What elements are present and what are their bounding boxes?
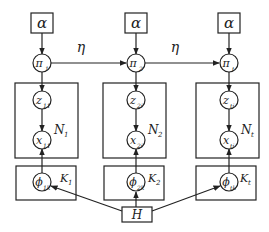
phi-sub-2: 2k (136, 184, 145, 191)
phi-sub-1: 1k (43, 184, 51, 191)
x-label-1: x (36, 134, 43, 147)
x-sub-2: 2i (136, 142, 143, 149)
z-sub-2: 2i (136, 102, 143, 109)
N-sub-3: t (251, 131, 254, 139)
z-sub-1: 11 (43, 102, 51, 109)
x-label-2: x (130, 134, 137, 147)
pi-label-1: π (34, 57, 43, 70)
eta-label-2: η (171, 39, 180, 55)
N-sub-1: 1 (64, 131, 68, 139)
N-sub-2: 2 (157, 131, 163, 139)
alpha-label-3: α (224, 14, 234, 32)
x-sub-1: 11 (43, 142, 51, 149)
pi-sub-2: 2 (138, 65, 143, 72)
K-sub-1: 1 (68, 179, 72, 187)
pi-sub-3: t (232, 65, 235, 72)
K-sub-2: 2 (155, 179, 161, 187)
pi-sub-1: 1 (45, 65, 49, 72)
z-label-3: z (222, 94, 229, 107)
K-sub-3: t (248, 179, 251, 187)
z-label-2: z (129, 94, 136, 107)
z-label-1: z (35, 94, 42, 107)
pi-label-3: π (221, 57, 230, 70)
alpha-label-1: α (37, 14, 47, 32)
phi-sub-3: tk (230, 184, 236, 191)
H-label: H (131, 208, 143, 222)
eta-label-1: η (77, 39, 86, 55)
plate-diagram: α α α η η π 1 z 11 x 11 ϕ 1k N 1 K 1 π 2… (0, 0, 269, 232)
pi-label-2: π (128, 57, 137, 70)
x-label-3: x (223, 134, 230, 147)
z-sub-3: ti (230, 102, 234, 109)
alpha-label-2: α (131, 14, 141, 32)
x-sub-3: ti (230, 142, 234, 149)
